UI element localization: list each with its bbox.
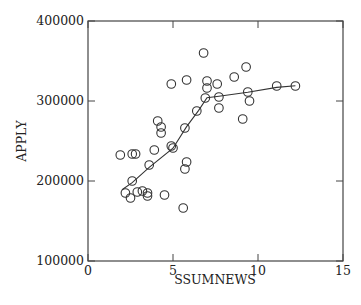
data-points bbox=[116, 49, 300, 213]
data-point-marker bbox=[128, 177, 137, 186]
data-point-marker bbox=[272, 82, 281, 91]
data-point-marker bbox=[193, 107, 202, 116]
data-point-marker bbox=[121, 189, 130, 198]
data-point-marker bbox=[215, 104, 224, 113]
y-tick-label: 300000 bbox=[36, 93, 84, 108]
data-point-marker bbox=[116, 151, 125, 160]
y-axis-title: APPLY bbox=[14, 119, 29, 162]
y-tick-label: 200000 bbox=[36, 173, 84, 188]
data-point-marker bbox=[230, 73, 239, 82]
x-tick-label: 15 bbox=[335, 263, 351, 278]
plot-border bbox=[88, 21, 343, 261]
data-point-marker bbox=[199, 49, 208, 58]
plot-frame bbox=[88, 21, 343, 261]
x-axis: 051015 bbox=[84, 21, 351, 278]
data-point-marker bbox=[181, 124, 190, 133]
data-point-marker bbox=[213, 80, 222, 89]
data-point-marker bbox=[138, 187, 147, 196]
data-point-marker bbox=[182, 76, 191, 85]
data-point-marker bbox=[167, 80, 176, 89]
x-axis-title: SSUMNEWS bbox=[174, 272, 256, 287]
y-axis: 100000200000300000400000 bbox=[36, 13, 343, 268]
data-point-marker bbox=[245, 97, 254, 106]
x-tick-label: 0 bbox=[84, 263, 92, 278]
data-point-marker bbox=[242, 63, 251, 72]
y-tick-label: 100000 bbox=[36, 253, 84, 268]
scatter-chart: 100000200000300000400000 051015 SSUMNEWS… bbox=[0, 0, 361, 305]
y-tick-label: 400000 bbox=[36, 13, 84, 28]
data-point-marker bbox=[150, 146, 159, 155]
data-point-marker bbox=[157, 129, 166, 138]
data-point-marker bbox=[238, 115, 247, 124]
data-point-marker bbox=[179, 204, 188, 213]
data-point-marker bbox=[160, 191, 169, 200]
